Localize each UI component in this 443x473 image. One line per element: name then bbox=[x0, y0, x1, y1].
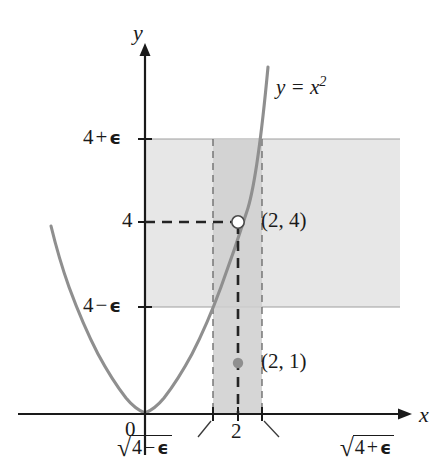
epsilon-delta-diagram bbox=[0, 0, 443, 473]
radical-sign: √ bbox=[117, 433, 130, 462]
open-point-label-text: (2, 4) bbox=[261, 208, 307, 232]
y-tick-lower-operator: − bbox=[94, 293, 110, 317]
radicand-right-number: 4 bbox=[355, 436, 365, 458]
x-axis-arrowhead bbox=[398, 409, 412, 420]
filled-point-label: (2, 1) bbox=[261, 351, 307, 372]
radicand-right-operator: + bbox=[365, 436, 380, 458]
epsilon-symbol: ϵ bbox=[380, 438, 391, 458]
y-axis-label-text: y bbox=[133, 20, 143, 45]
radicand-right: 4+ϵ bbox=[353, 435, 395, 458]
y-tick-label-upper: 4+ϵ bbox=[83, 127, 121, 148]
y-tick-upper-number: 4 bbox=[83, 125, 94, 149]
radical-sign: √ bbox=[340, 433, 353, 462]
filled-point-label-text: (2, 1) bbox=[261, 349, 307, 373]
epsilon-symbol: ϵ bbox=[109, 295, 121, 316]
radicand-left-number: 4 bbox=[132, 436, 142, 458]
y-tick-upper-operator: + bbox=[94, 125, 110, 149]
curve-equation-label: y = x2 bbox=[276, 74, 326, 98]
y-tick-lower-number: 4 bbox=[83, 293, 94, 317]
x-tick-label-center: 2 bbox=[231, 421, 242, 442]
y-axis-label: y bbox=[133, 22, 143, 44]
curve-equation-prefix: y = bbox=[276, 75, 305, 99]
curve-equation-base: x bbox=[310, 75, 319, 99]
y-tick-label-lower: 4−ϵ bbox=[83, 295, 121, 316]
epsilon-symbol: ϵ bbox=[157, 438, 168, 458]
y-tick-label-center: 4 bbox=[122, 210, 133, 231]
radicand-left-operator: − bbox=[142, 436, 157, 458]
epsilon-symbol: ϵ bbox=[109, 127, 121, 148]
open-point-label: (2, 4) bbox=[261, 210, 307, 231]
x-tick-label-left: √4−ϵ bbox=[117, 434, 172, 460]
open-point-marker bbox=[232, 216, 244, 228]
curve-equation-exponent: 2 bbox=[319, 73, 326, 89]
x-tick-label-right: √4+ϵ bbox=[340, 434, 395, 460]
y-tick-center-number: 4 bbox=[122, 208, 133, 232]
leader-line-right-radical bbox=[264, 421, 279, 437]
x-tick-center-text: 2 bbox=[231, 419, 242, 443]
radicand-left: 4−ϵ bbox=[130, 435, 172, 458]
filled-point-marker bbox=[233, 358, 243, 368]
leader-line-left-radical bbox=[198, 421, 211, 437]
x-axis-label-text: x bbox=[419, 402, 429, 427]
x-axis-label: x bbox=[419, 404, 429, 426]
figure-canvas: y x 0 4+ϵ 4 4−ϵ y = x2 (2, 4) (2, 1) 2 √… bbox=[0, 0, 443, 473]
